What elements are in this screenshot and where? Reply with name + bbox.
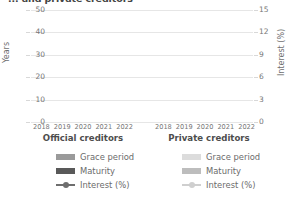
plot-area bbox=[31, 10, 253, 122]
y-tick-mark-right bbox=[254, 77, 258, 78]
legend-item-label: Maturity bbox=[206, 166, 241, 176]
x-tick-label: 2022 bbox=[238, 123, 255, 131]
y-tick-label-right: 9 bbox=[259, 50, 264, 59]
y-tick-label-left: 20 bbox=[35, 72, 45, 81]
legend-item-label: Maturity bbox=[80, 166, 115, 176]
legend-item[interactable]: Maturity bbox=[182, 166, 260, 176]
y-tick-label-right: 3 bbox=[259, 95, 264, 104]
panel-title-official: Official creditors bbox=[20, 133, 146, 143]
panel-title-private: Private creditors bbox=[146, 133, 272, 143]
legend-color-swatch bbox=[182, 154, 201, 160]
legend-item-label: Interest (%) bbox=[206, 180, 255, 190]
x-tick-label: 2020 bbox=[197, 123, 214, 131]
x-tick-label: 2022 bbox=[116, 123, 133, 131]
gridline bbox=[31, 77, 253, 78]
y-tick-mark-right bbox=[254, 32, 258, 33]
legend-item[interactable]: Grace period bbox=[56, 152, 134, 162]
legend-color-swatch bbox=[56, 168, 75, 174]
x-tick-label: 2018 bbox=[155, 123, 172, 131]
x-tick-label: 2021 bbox=[95, 123, 112, 131]
legend-color-swatch bbox=[56, 154, 75, 160]
x-tick-label: 2021 bbox=[217, 123, 234, 131]
legend-item[interactable]: Interest (%) bbox=[182, 180, 260, 190]
gridline bbox=[31, 55, 253, 56]
y-tick-mark-left bbox=[26, 55, 30, 56]
y-tick-label-right: 12 bbox=[259, 27, 269, 36]
y-tick-mark-left bbox=[26, 10, 30, 11]
legend-color-swatch bbox=[182, 168, 201, 174]
gridline bbox=[31, 10, 253, 11]
y-tick-mark-right bbox=[254, 100, 258, 101]
y-tick-mark-right bbox=[254, 10, 258, 11]
legend-line-marker-icon bbox=[182, 181, 201, 189]
legend-official-creditors: Grace periodMaturityInterest (%) bbox=[56, 152, 134, 190]
y-tick-mark-right bbox=[254, 55, 258, 56]
legend-item-label: Grace period bbox=[80, 152, 134, 162]
gridline bbox=[31, 100, 253, 101]
y-tick-mark-left bbox=[26, 32, 30, 33]
x-tick-label: 2019 bbox=[54, 123, 71, 131]
y-tick-label-right: 0 bbox=[259, 117, 264, 126]
y-tick-label-right: 6 bbox=[259, 72, 264, 81]
legend-item-label: Interest (%) bbox=[80, 180, 129, 190]
y-tick-label-right: 15 bbox=[259, 5, 269, 14]
gridline bbox=[31, 32, 253, 33]
y-axis-left-label: Years bbox=[2, 42, 11, 63]
x-tick-label: 2019 bbox=[176, 123, 193, 131]
y-tick-label-left: 50 bbox=[35, 5, 45, 14]
y-tick-label-left: 40 bbox=[35, 27, 45, 36]
y-tick-mark-left bbox=[26, 122, 30, 123]
y-tick-mark-left bbox=[26, 77, 30, 78]
x-tick-label: 2020 bbox=[75, 123, 92, 131]
chart-title: ... and private creditors bbox=[8, 0, 133, 4]
y-axis-right-label: Interest (%) bbox=[277, 29, 286, 76]
x-axis-official: 20182019202020212022 bbox=[33, 123, 133, 131]
y-tick-label-left: 30 bbox=[35, 50, 45, 59]
legend-line-marker-icon bbox=[56, 181, 75, 189]
legend-item-label: Grace period bbox=[206, 152, 260, 162]
legend-item[interactable]: Maturity bbox=[56, 166, 134, 176]
legend-item[interactable]: Interest (%) bbox=[56, 180, 134, 190]
y-tick-label-left: 10 bbox=[35, 95, 45, 104]
y-tick-mark-left bbox=[26, 100, 30, 101]
y-tick-label-left: 0 bbox=[40, 117, 45, 126]
x-axis-private: 20182019202020212022 bbox=[155, 123, 255, 131]
legend-private-creditors: Grace periodMaturityInterest (%) bbox=[182, 152, 260, 190]
legend-item[interactable]: Grace period bbox=[182, 152, 260, 162]
